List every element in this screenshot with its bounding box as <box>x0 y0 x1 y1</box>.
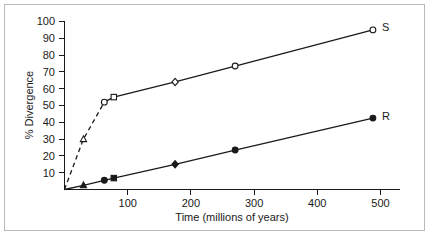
series-S-point-circle <box>232 63 238 69</box>
x-tick-label: 500 <box>371 197 389 209</box>
series-R-point-square <box>111 175 116 180</box>
series-S-point-circle <box>101 99 107 105</box>
x-tick-label: 100 <box>119 197 137 209</box>
series-S-point-diamond <box>172 78 178 85</box>
series-S-line <box>104 30 373 102</box>
y-tick-label: 70 <box>43 66 55 78</box>
y-tick-label: 50 <box>43 99 55 111</box>
series-S-point-square <box>111 94 116 99</box>
y-tick-label: 30 <box>43 133 55 145</box>
series-R-point-circle <box>101 177 107 183</box>
x-axis-title: Time (millions of years) <box>175 211 288 223</box>
series-label-S: S <box>382 21 389 33</box>
y-tick-label: 60 <box>43 83 55 95</box>
x-tick-label: 300 <box>245 197 263 209</box>
x-axis-ticks <box>128 190 381 196</box>
y-axis-tick-labels: 102030405060708090100 <box>37 15 55 178</box>
series-label-R: R <box>382 110 390 122</box>
series-end-labels: SR <box>382 21 390 121</box>
x-axis-tick-labels: 100200300400500 <box>119 197 390 209</box>
y-axis-ticks <box>59 22 65 173</box>
y-tick-label: 40 <box>43 116 55 128</box>
series-markers <box>80 27 375 188</box>
figure-container: 102030405060708090100 100200300400500 SR… <box>0 0 439 234</box>
series-S-point-circle <box>370 27 376 33</box>
y-tick-label: 10 <box>43 167 55 179</box>
series-R-point-circle <box>232 147 238 153</box>
series-R-point-triangle <box>80 182 86 188</box>
y-tick-label: 80 <box>43 49 55 61</box>
y-tick-label: 20 <box>43 150 55 162</box>
series-R-point-circle <box>370 115 376 121</box>
series-S-point-triangle <box>80 136 86 142</box>
x-tick-label: 400 <box>308 197 326 209</box>
series-R-point-diamond <box>172 161 178 168</box>
y-tick-label: 90 <box>43 32 55 44</box>
series-S-dashed-segment <box>65 102 105 189</box>
y-tick-label: 100 <box>37 15 55 27</box>
x-tick-label: 200 <box>182 197 200 209</box>
divergence-vs-time-chart: 102030405060708090100 100200300400500 SR… <box>0 0 439 234</box>
y-axis-title: % Divergence <box>23 71 35 139</box>
series-lines <box>65 30 373 190</box>
